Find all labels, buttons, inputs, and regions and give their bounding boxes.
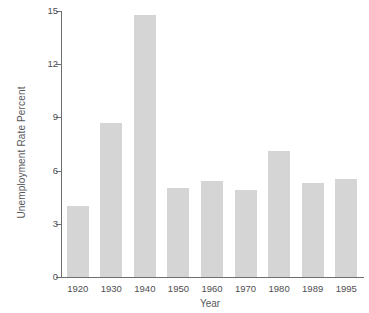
y-axis-tick-label: 6 xyxy=(53,165,58,176)
y-axis-tick-label: 0 xyxy=(53,271,58,282)
y-axis-tick-label: 15 xyxy=(47,5,58,16)
bar xyxy=(302,183,324,277)
y-axis-tick-label: 3 xyxy=(53,218,58,229)
unemployment-bar-chart: Unemployment Rate Percent 03691215 Year … xyxy=(0,0,369,313)
bar xyxy=(201,181,223,277)
bar xyxy=(335,179,357,277)
bar xyxy=(235,190,257,277)
bar xyxy=(134,15,156,277)
x-axis-line xyxy=(61,277,364,278)
bar xyxy=(100,123,122,277)
x-axis-tick-label: 1995 xyxy=(321,283,369,294)
y-axis-title: Unemployment Rate Percent xyxy=(16,58,27,248)
x-axis-title: Year xyxy=(55,298,365,309)
bar xyxy=(268,151,290,277)
bar xyxy=(167,188,189,277)
bar xyxy=(67,206,89,277)
plot-area: 03691215 xyxy=(61,11,363,277)
y-axis-tick-label: 9 xyxy=(53,111,58,122)
y-axis-tick-label: 12 xyxy=(47,58,58,69)
